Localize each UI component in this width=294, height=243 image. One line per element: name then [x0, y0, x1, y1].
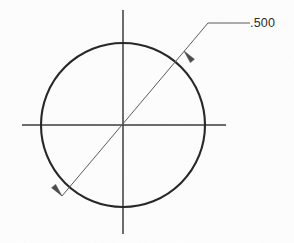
lower-left-arrowhead [52, 184, 62, 196]
diameter-value-text[interactable]: .500 [250, 17, 275, 30]
technical-drawing-canvas: .500 [0, 0, 294, 243]
drawing-svg [0, 0, 294, 243]
upper-right-arrowhead [184, 51, 194, 63]
diameter-dimension-line[interactable] [62, 23, 208, 196]
